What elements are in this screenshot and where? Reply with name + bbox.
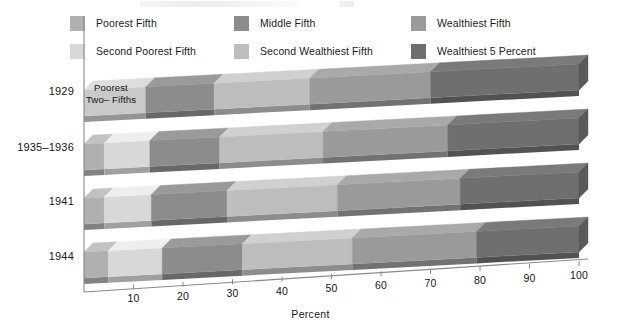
middle-fifth-front: [151, 190, 227, 220]
middle-fifth-front: [150, 137, 220, 167]
second-poorest-fifth-front: [108, 248, 162, 277]
bar-1929[interactable]: [84, 55, 588, 122]
x-tick-label-80: 80: [465, 274, 495, 286]
bar-1935-1936[interactable]: [84, 109, 588, 176]
second-wealthiest-fifth-front: [214, 78, 310, 109]
x-tick-label-30: 30: [218, 287, 248, 299]
x-tick-label-10: 10: [119, 292, 149, 304]
middle-fifth-front: [162, 244, 242, 274]
y-label-1935-1936: 1935–1936: [0, 141, 74, 153]
annotation-line-1: Poorest: [94, 82, 128, 93]
x-tick-label-90: 90: [515, 272, 545, 284]
y-label-1941: 1941: [0, 195, 74, 207]
y-label-1944: 1944: [0, 250, 74, 262]
bar-1941[interactable]: [84, 163, 588, 230]
bar-group: [84, 55, 588, 284]
middle-fifth-front: [146, 83, 214, 113]
bar-1944[interactable]: [84, 217, 588, 284]
x-tick-label-60: 60: [366, 279, 396, 291]
x-tick-label-50: 50: [317, 282, 347, 294]
poorest-fifth-front: [84, 197, 104, 224]
x-tick-label-100: 100: [564, 269, 594, 281]
bar-annotation-poorest-two-fifths: Poorest Two– Fifths: [74, 82, 148, 105]
second-poorest-fifth-front: [104, 194, 151, 222]
y-label-1929: 1929: [0, 85, 74, 97]
poorest-fifth-front: [84, 143, 104, 170]
x-tick-label-70: 70: [416, 277, 446, 289]
annotation-line-2: Two– Fifths: [86, 94, 136, 105]
poorest-fifth-front: [84, 251, 108, 278]
x-tick-label-20: 20: [168, 290, 198, 302]
x-axis-title: Percent: [0, 308, 621, 320]
x-tick-label-40: 40: [267, 285, 297, 297]
second-poorest-fifth-front: [104, 141, 150, 169]
chart-root: Poorest Fifth Middle Fifth Wealthiest Fi…: [0, 0, 621, 329]
